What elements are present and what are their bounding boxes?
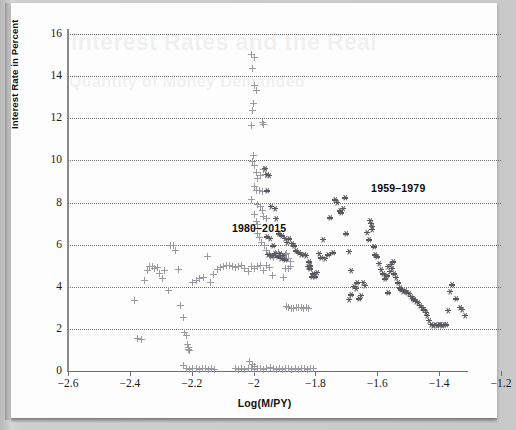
data-point: [312, 274, 318, 280]
data-point: [264, 171, 270, 177]
x-axis-line: [68, 371, 468, 372]
data-point: [276, 365, 283, 372]
x-tick-label: −2.6: [48, 377, 88, 389]
y-tick-label: 0: [36, 364, 62, 376]
data-point: [443, 322, 449, 328]
data-point: [288, 305, 295, 312]
x-tick-mark: [377, 371, 378, 376]
data-point: [260, 121, 267, 128]
data-point: [250, 152, 257, 159]
data-point: [172, 247, 179, 254]
data-point: [253, 87, 260, 94]
data-point: [238, 365, 245, 372]
data-point: [395, 280, 401, 286]
data-point: [408, 293, 414, 299]
data-point: [457, 304, 463, 310]
data-point: [368, 220, 374, 226]
data-point: [423, 309, 429, 315]
data-point: [264, 188, 270, 194]
data-point: [369, 223, 375, 229]
data-point: [267, 235, 273, 241]
data-point: [265, 251, 271, 257]
data-point: [251, 211, 258, 218]
data-point: [453, 296, 459, 302]
data-point: [257, 172, 264, 179]
data-point: [256, 234, 263, 241]
data-point: [193, 277, 200, 284]
data-point: [263, 215, 270, 222]
y-tick-label: 16: [36, 27, 62, 39]
data-point: [285, 255, 292, 262]
x-tick-label: −2.2: [172, 377, 212, 389]
data-point: [251, 183, 258, 190]
data-point: [295, 304, 302, 311]
data-point: [402, 288, 408, 294]
data-point: [300, 305, 307, 312]
x-tick-label: −1.2: [481, 377, 516, 389]
data-point: [270, 253, 276, 259]
gridline-y: [68, 160, 501, 161]
data-point: [275, 249, 282, 256]
data-point: [266, 173, 272, 179]
data-point: [424, 312, 430, 318]
data-point: [376, 261, 382, 267]
data-point: [269, 272, 276, 279]
data-point: [268, 203, 274, 209]
data-point: [223, 262, 230, 269]
data-point: [277, 252, 284, 259]
figure-page: Interest Rates and the Real Quantity of …: [11, 3, 497, 418]
data-point: [264, 234, 270, 240]
data-point: [400, 288, 406, 294]
data-point: [246, 358, 253, 365]
data-point: [262, 171, 269, 178]
data-point: [270, 243, 276, 249]
data-point: [387, 269, 393, 275]
data-point: [287, 263, 294, 270]
data-point: [307, 365, 314, 372]
data-point: [437, 322, 443, 328]
y-axis-label: Interest Rate in Percent: [9, 19, 20, 129]
data-point: [249, 361, 256, 368]
data-point: [138, 336, 145, 343]
data-point: [272, 250, 278, 256]
data-point: [277, 250, 283, 256]
data-point: [285, 265, 292, 272]
data-point: [204, 253, 211, 260]
data-point: [316, 250, 322, 256]
x-tick-mark: [254, 371, 255, 376]
data-point: [291, 243, 297, 249]
data-point: [232, 264, 239, 271]
data-point: [459, 306, 465, 312]
data-point: [238, 262, 245, 269]
data-point: [226, 262, 233, 269]
data-point: [348, 292, 354, 298]
x-tick-mark: [439, 371, 440, 376]
data-point: [305, 263, 311, 269]
data-point: [267, 364, 274, 371]
data-point: [177, 302, 184, 309]
data-point: [290, 305, 297, 312]
data-point: [248, 263, 255, 270]
gridline-y: [68, 287, 501, 288]
x-tick-label: −1.6: [357, 377, 397, 389]
data-point: [141, 277, 148, 284]
data-point: [310, 271, 316, 277]
data-point: [248, 122, 255, 129]
data-point: [320, 236, 326, 242]
x-tick-mark: [192, 371, 193, 376]
data-point: [259, 207, 266, 214]
data-point: [309, 274, 315, 280]
data-point: [161, 267, 168, 274]
data-point: [251, 265, 258, 272]
data-point: [217, 264, 224, 271]
x-tick-mark: [130, 371, 131, 376]
data-point: [366, 237, 372, 243]
data-point: [385, 263, 391, 269]
data-point: [417, 302, 423, 308]
x-tick-label: −1.8: [295, 377, 335, 389]
data-point: [259, 188, 266, 195]
data-point: [235, 263, 242, 270]
data-point: [390, 259, 396, 265]
data-point: [282, 235, 288, 241]
